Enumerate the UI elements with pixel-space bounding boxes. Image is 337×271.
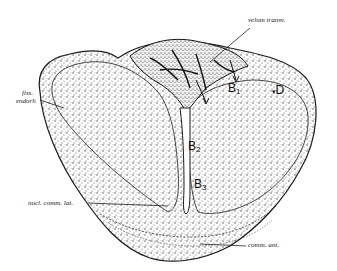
label-B3: B3 bbox=[194, 178, 206, 192]
label-fiss: fiss. bbox=[22, 90, 33, 97]
label-nucl-comm-lat: nucl. comm. lat. bbox=[28, 200, 73, 207]
right-lobe bbox=[188, 80, 308, 213]
label-velum: velum transv. bbox=[248, 17, 285, 24]
label-comm-ant: comm. ant. bbox=[248, 242, 279, 249]
brain-section-drawing bbox=[0, 0, 337, 271]
label-B2: B2 bbox=[188, 140, 200, 154]
label-B1: B1 bbox=[228, 82, 240, 96]
label-D: ▾D bbox=[272, 84, 284, 96]
label-endorh: endorh bbox=[16, 98, 36, 105]
figure: velum transv. fiss. endorh nucl. comm. l… bbox=[0, 0, 337, 271]
